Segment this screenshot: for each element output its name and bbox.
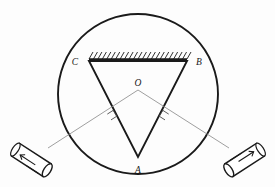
mirror-hatch-line xyxy=(107,52,111,59)
mirror-hatch-line xyxy=(116,52,120,59)
mirror-hatch-line xyxy=(183,52,187,59)
spectrometer-table-circle xyxy=(58,14,218,174)
label-vertex-b: B xyxy=(196,57,202,67)
mirror-hatch-line xyxy=(187,52,191,59)
mirror-hatch-line xyxy=(120,52,124,59)
label-center-o: O xyxy=(135,78,142,88)
mirror-hatch-line xyxy=(142,52,146,59)
ray-right-line xyxy=(138,90,229,148)
mirror-hatch-line xyxy=(93,52,97,59)
mirror-hatch-line xyxy=(160,52,164,59)
mirror-hatch-line xyxy=(169,52,173,59)
mirror-hatch-line xyxy=(147,52,151,59)
mirror-hatch-line xyxy=(138,52,142,59)
prism-triangle xyxy=(89,61,187,157)
collimator-left[interactable] xyxy=(9,142,54,179)
mirror-hatch-line xyxy=(102,52,106,59)
figure-canvas: C B O A xyxy=(0,0,275,187)
mirror-hatch-line xyxy=(156,52,160,59)
mirror-hatch-line xyxy=(165,52,169,59)
mirror-hatch-line xyxy=(178,52,182,59)
mirror-hatch-line xyxy=(134,52,138,59)
mirror-hatch-line xyxy=(151,52,155,59)
mirror-hatch-line xyxy=(98,52,102,59)
mirror-hatch-line xyxy=(111,52,115,59)
mirror-hatch-lines xyxy=(89,52,191,59)
mirror-hatch-line xyxy=(125,52,129,59)
mirror-hatch-line xyxy=(174,52,178,59)
telescope-right[interactable] xyxy=(222,142,267,179)
mirror-hatch-line xyxy=(89,52,93,59)
label-vertex-c: C xyxy=(72,57,79,67)
optics-figure: C B O A xyxy=(0,0,275,187)
label-vertex-a: A xyxy=(134,165,141,175)
mirror-hatch-line xyxy=(129,52,133,59)
